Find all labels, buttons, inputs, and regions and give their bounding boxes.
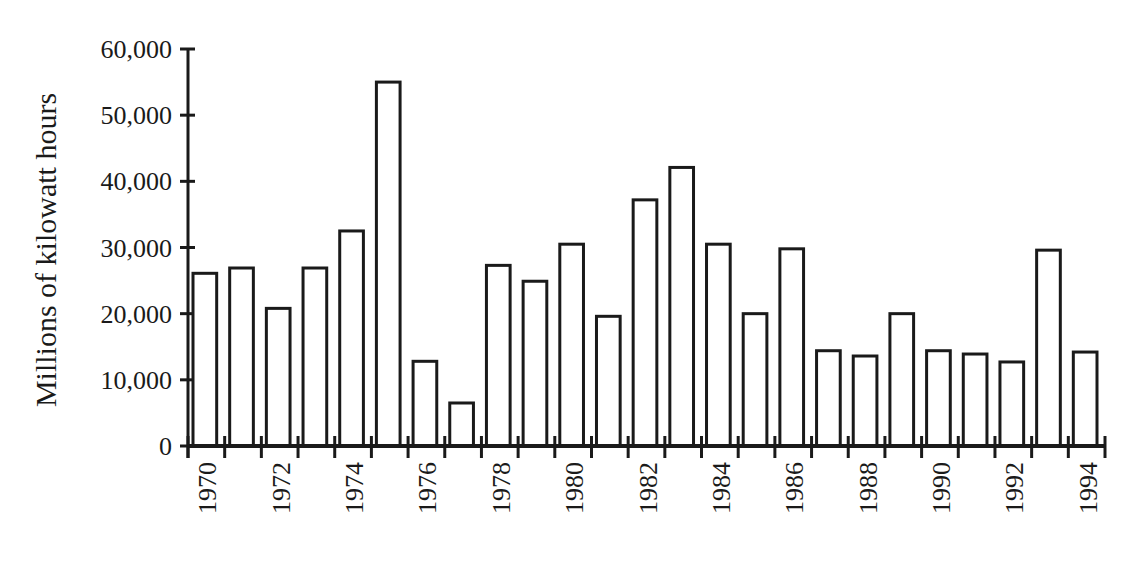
y-tick-label: 20,000 xyxy=(101,300,173,329)
x-tick-label: 1978 xyxy=(487,462,516,514)
bar-1985 xyxy=(743,314,767,446)
y-tick-label: 0 xyxy=(159,432,172,461)
x-tick-label: 1986 xyxy=(780,462,809,514)
y-tick-label: 30,000 xyxy=(101,234,173,263)
bar-1971 xyxy=(230,268,254,446)
bar-1973 xyxy=(303,268,327,446)
bar-1977 xyxy=(450,403,474,446)
bar-1994 xyxy=(1073,352,1097,446)
x-tick-label: 1990 xyxy=(927,462,956,514)
x-tick-label: 1982 xyxy=(634,462,663,514)
bar-chart: Millions of kilowatt hours 010,00020,000… xyxy=(0,0,1134,563)
x-tick-label: 1974 xyxy=(340,462,369,514)
x-tick-label: 1992 xyxy=(1000,462,1029,514)
y-axis-title: Millions of kilowatt hours xyxy=(29,93,62,407)
x-tick-label: 1972 xyxy=(267,462,296,514)
x-tick-label: 1984 xyxy=(707,462,736,514)
bar-1983 xyxy=(670,167,694,446)
bar-1981 xyxy=(596,316,620,446)
bar-1987 xyxy=(817,351,841,446)
y-tick-label: 10,000 xyxy=(101,366,173,395)
y-tick-label: 40,000 xyxy=(101,167,173,196)
bar-1979 xyxy=(523,281,547,446)
x-tick-label: 1970 xyxy=(193,462,222,514)
bar-1970 xyxy=(193,273,217,446)
x-tick-label: 1988 xyxy=(854,462,883,514)
x-axis: 1970197219741976197819801982198419861988… xyxy=(188,436,1105,514)
bar-1990 xyxy=(927,351,951,446)
bar-1993 xyxy=(1037,250,1061,446)
bars xyxy=(193,82,1097,446)
bar-1991 xyxy=(963,354,987,446)
bar-1989 xyxy=(890,314,914,446)
x-tick-label: 1976 xyxy=(413,462,442,514)
y-axis-title-group: Millions of kilowatt hours xyxy=(29,93,62,407)
bar-1992 xyxy=(1000,362,1024,446)
bar-1984 xyxy=(707,244,731,446)
bar-1982 xyxy=(633,200,657,446)
bar-1986 xyxy=(780,249,804,446)
y-axis: 010,00020,00030,00040,00050,00060,000 xyxy=(101,35,196,461)
bar-1980 xyxy=(560,244,584,446)
bar-1978 xyxy=(486,265,510,446)
bar-1976 xyxy=(413,361,437,446)
y-tick-label: 60,000 xyxy=(101,35,173,64)
bar-1988 xyxy=(853,356,877,446)
x-tick-label: 1980 xyxy=(560,462,589,514)
bar-1975 xyxy=(376,82,400,446)
x-tick-label: 1994 xyxy=(1074,462,1103,514)
bar-1974 xyxy=(340,231,364,446)
bar-1972 xyxy=(266,308,290,446)
y-tick-label: 50,000 xyxy=(101,101,173,130)
